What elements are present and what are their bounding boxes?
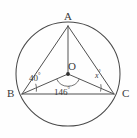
angle-label-b: 40° [29, 74, 41, 83]
center-point-dot [66, 72, 70, 76]
vertex-label-b: B [7, 88, 14, 99]
angle-label-o: 146° [54, 88, 70, 97]
vertex-label-c: C [122, 88, 129, 99]
center-label-o: O [68, 61, 76, 72]
angle-label-c: x° [95, 72, 101, 80]
angle-b-degree-symbol: ° [38, 71, 41, 78]
vertex-label-a: A [64, 11, 72, 22]
angle-b-value: 40 [29, 73, 38, 83]
angle-c-degree-symbol: ° [99, 69, 101, 75]
angle-o-value: 146 [54, 87, 68, 97]
geometry-figure: A B C O 40° x° 146° [0, 0, 137, 138]
angle-o-degree-symbol: ° [68, 85, 71, 92]
